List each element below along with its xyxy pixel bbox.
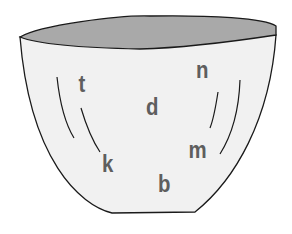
letter-d: d <box>146 95 158 119</box>
bowl-illustration: t n d m k b <box>0 0 292 234</box>
letter-n: n <box>196 58 208 82</box>
letter-b: b <box>158 172 170 196</box>
letter-k: k <box>102 152 113 176</box>
letter-t: t <box>79 72 86 96</box>
letter-m: m <box>189 138 207 162</box>
